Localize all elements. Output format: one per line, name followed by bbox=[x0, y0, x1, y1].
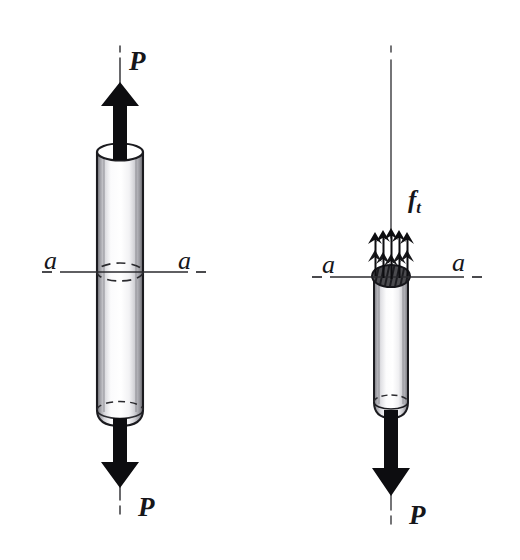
right-section-label-a-right: a bbox=[452, 250, 465, 276]
right-stress-arrow-group bbox=[368, 228, 414, 279]
left-panel-group bbox=[42, 46, 206, 514]
left-load-arrow-bottom bbox=[101, 418, 139, 488]
right-load-label-bottom: P bbox=[409, 502, 426, 529]
diagram-svg bbox=[0, 0, 520, 560]
stress-label-ft-subscript: t bbox=[416, 198, 421, 217]
left-load-label-bottom: P bbox=[138, 494, 155, 521]
right-section-label-a-left: a bbox=[322, 252, 335, 278]
figure-canvas: P P a a ft P a a bbox=[0, 0, 520, 560]
left-load-label-top: P bbox=[129, 48, 146, 75]
left-section-label-a-left: a bbox=[44, 248, 57, 274]
right-load-arrow-bottom bbox=[372, 410, 410, 496]
right-panel-group bbox=[312, 46, 482, 524]
right-cylinder bbox=[374, 276, 408, 418]
left-section-label-a-right: a bbox=[178, 248, 191, 274]
stress-label-ft: ft bbox=[408, 187, 421, 216]
left-cylinder bbox=[97, 144, 143, 427]
